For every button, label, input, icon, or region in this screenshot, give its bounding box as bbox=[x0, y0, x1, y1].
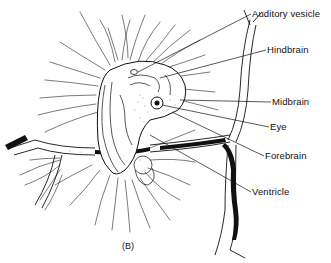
panel-label: (B) bbox=[122, 241, 134, 251]
label-eye: Eye bbox=[270, 121, 287, 132]
embryo-diagram: Auditory vesicle Hindbrain Midbrain Eye … bbox=[0, 0, 331, 263]
label-ventricle: Ventricle bbox=[252, 186, 289, 197]
label-midbrain: Midbrain bbox=[272, 96, 309, 107]
label-hindbrain: Hindbrain bbox=[267, 44, 309, 55]
label-forebrain: Forebrain bbox=[265, 150, 307, 161]
label-auditory-vesicle: Auditory vesicle bbox=[252, 8, 320, 19]
